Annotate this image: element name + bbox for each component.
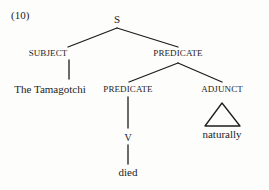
node-naturally: naturally (202, 129, 241, 140)
tree-edges (0, 0, 269, 190)
node-the-tamagotchi: The Tamagotchi (14, 84, 85, 95)
edge-predicate-adjunct (178, 63, 222, 82)
node-adjunct: ADJUNCT (201, 85, 243, 94)
node-s: S (114, 14, 120, 25)
node-subject: SUBJECT (29, 49, 68, 58)
edge-s-predicate (117, 28, 178, 47)
edge-s-subject (68, 28, 117, 47)
adjunct-triangle (205, 103, 240, 126)
node-predicate-upper: PREDICATE (153, 49, 202, 58)
example-number: (10) (11, 10, 29, 21)
edge-predicate-predicate (129, 63, 178, 82)
node-died: died (119, 167, 138, 178)
node-predicate-lower: PREDICATE (103, 85, 152, 94)
syntax-tree-figure: (10) S SUBJECT PREDICATE The Tamagotchi … (0, 0, 269, 190)
node-v: V (124, 133, 131, 143)
